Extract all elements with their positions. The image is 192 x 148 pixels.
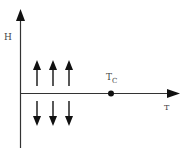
y-axis — [16, 9, 25, 148]
down-arrows — [33, 101, 73, 126]
critical-point-dot — [108, 91, 114, 97]
up-arrow-icon — [65, 60, 73, 86]
critical-temp-label: TC — [106, 72, 117, 85]
y-axis-arrowhead-icon — [16, 9, 25, 21]
y-axis-label: H — [4, 32, 12, 42]
up-arrow-icon — [49, 60, 57, 86]
down-arrow-icon — [33, 101, 41, 126]
phase-diagram: H TC T — [0, 0, 192, 148]
x-axis-arrowhead-icon — [167, 89, 180, 98]
up-arrow-icon — [33, 60, 41, 86]
down-arrow-icon — [49, 101, 57, 126]
x-axis-label: T — [164, 103, 170, 112]
down-arrow-icon — [65, 101, 73, 126]
x-axis — [20, 89, 180, 98]
up-arrows — [33, 60, 73, 86]
